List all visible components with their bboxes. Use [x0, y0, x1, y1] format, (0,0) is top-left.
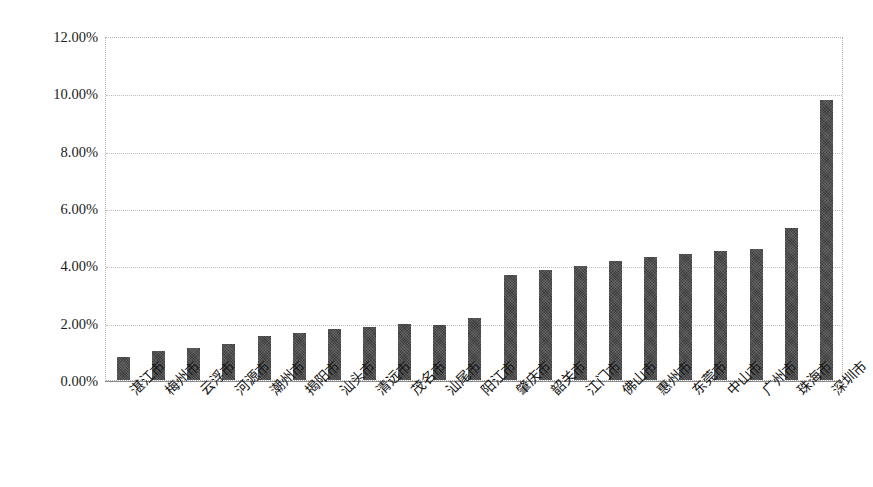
bar-slot: [211, 38, 246, 380]
y-axis-tick-label: 2.00%: [26, 315, 98, 332]
bar-slot: [247, 38, 282, 380]
bar-slot: [422, 38, 457, 380]
bar-slot: [633, 38, 668, 380]
bar-slot: [809, 38, 844, 380]
bar-slot: [282, 38, 317, 380]
y-axis-tick-label: 10.00%: [26, 86, 98, 103]
y-axis-tick-label: 12.00%: [26, 29, 98, 46]
y-axis-tick-label: 4.00%: [26, 258, 98, 275]
bar-slot: [598, 38, 633, 380]
bar-chart: 0.00%2.00%4.00%6.00%8.00%10.00%12.00% 湛江…: [0, 0, 873, 487]
bar-slot: [703, 38, 738, 380]
bar: [820, 100, 833, 380]
x-axis-tick-labels: 湛江市梅州市云浮市河源市潮州市揭阳市汕头市清远市茂名市汕尾市阳江市肇庆市韶关市江…: [105, 383, 843, 487]
bar-slot: [457, 38, 492, 380]
bar-slot: [528, 38, 563, 380]
plot-area: [105, 37, 843, 381]
y-axis-tick-label: 6.00%: [26, 201, 98, 218]
bar-slot: [668, 38, 703, 380]
bar-slot: [352, 38, 387, 380]
bar-slot: [739, 38, 774, 380]
bar-slot: [141, 38, 176, 380]
y-axis-tick-label: 0.00%: [26, 373, 98, 390]
bar-slot: [317, 38, 352, 380]
bar-slot: [493, 38, 528, 380]
bar-slot: [176, 38, 211, 380]
bar: [117, 357, 130, 380]
bar-slot: [563, 38, 598, 380]
y-axis-tick-label: 8.00%: [26, 143, 98, 160]
bar-slot: [387, 38, 422, 380]
bar-slot: [106, 38, 141, 380]
bar-slot: [774, 38, 809, 380]
